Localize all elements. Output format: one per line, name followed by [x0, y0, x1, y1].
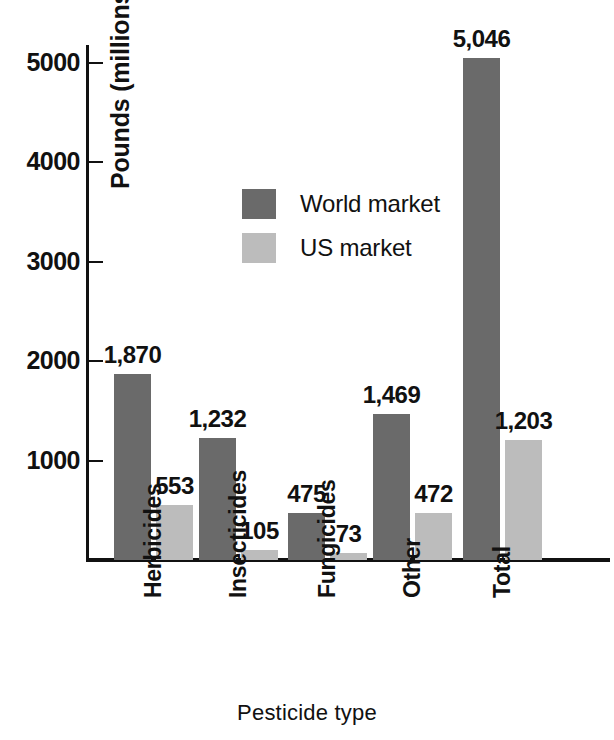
x-axis-label-insecticides: Insecticides: [225, 470, 253, 598]
bar-group-total: 5,0461,203: [463, 47, 542, 560]
y-axis-tick-label-3000: 3000: [10, 249, 80, 274]
x-axis-label-total: Total: [489, 546, 517, 598]
y-axis-tick-label-2000: 2000: [10, 348, 80, 373]
legend-swatch-us-icon: [242, 233, 276, 263]
legend-label-us-market: US market: [300, 234, 412, 262]
y-axis-tick-labels: 10002000300040005000: [0, 0, 80, 740]
bar-total-world-market: 5,046: [463, 58, 500, 560]
y-axis-tick-label-5000: 5000: [10, 50, 80, 75]
x-axis-label-other: Other: [399, 538, 427, 598]
bar-group-other: 1,469472: [373, 47, 452, 560]
legend-item-us-market: US market: [242, 226, 440, 270]
y-axis-tick-label-1000: 1000: [10, 448, 80, 473]
x-axis-label-fungicides: Fungicides: [314, 480, 342, 598]
bar-value-label-insecticides-world-market: 1,232: [189, 407, 247, 431]
bar-value-label-other-us-market: 472: [414, 482, 453, 506]
bar-chart-figure: 10002000300040005000 Pounds (millions) 1…: [0, 0, 614, 740]
bar-value-label-herbicides-world-market: 1,870: [104, 343, 162, 367]
bar-value-label-other-world-market: 1,469: [363, 383, 421, 407]
legend-item-world-market: World market: [242, 182, 440, 226]
bar-value-label-total-world-market: 5,046: [453, 27, 511, 51]
legend-swatch-world-icon: [242, 189, 276, 219]
y-axis-tick-label-4000: 4000: [10, 149, 80, 174]
x-axis-title: Pesticide type: [0, 700, 614, 726]
legend-label-world-market: World market: [300, 190, 440, 218]
x-axis-label-herbicides: Herbicides: [140, 483, 168, 598]
bar-value-label-total-us-market: 1,203: [495, 409, 553, 433]
bar-total-us-market: 1,203: [505, 440, 542, 560]
chart-legend: World market US market: [242, 182, 440, 270]
